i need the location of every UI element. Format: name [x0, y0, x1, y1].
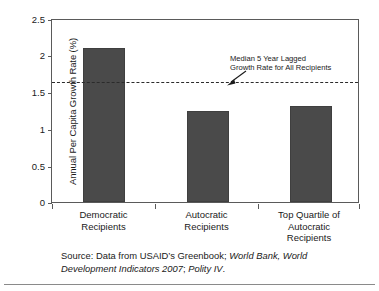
source-note-italic-polity: Polity IV [188, 263, 222, 274]
median-reference-line [52, 82, 358, 83]
bar-democratic-recipients [83, 48, 125, 202]
y-tick-mark [48, 93, 52, 94]
chart-figure: Annual Per Capita Growth Rate (%) 2.5 2 … [0, 0, 379, 291]
y-tick-mark [48, 167, 52, 168]
source-note: Source: Data from USAID’s Greenbook; Wor… [61, 250, 361, 275]
x-axis-label-autocratic-recipients: Autocratic Recipients [155, 209, 258, 232]
y-tick-label: 0 [40, 197, 45, 208]
annotation-arrow-icon [222, 68, 250, 88]
y-tick-mark [48, 20, 52, 21]
plot-area: Annual Per Capita Growth Rate (%) 2.5 2 … [51, 19, 359, 203]
y-tick-label: 2.5 [32, 14, 45, 25]
y-tick-mark [48, 56, 52, 57]
x-axis-label-top-quartile-autocratic-recipients: Top Quartile of Autocratic Recipients [258, 209, 360, 244]
y-tick-label: 0.5 [32, 161, 45, 172]
y-axis-title: Annual Per Capita Growth Rate (%) [67, 17, 78, 207]
bottom-divider [4, 284, 375, 285]
y-tick-label: 2 [40, 50, 45, 61]
bar-autocratic-recipients [187, 111, 229, 203]
source-note-prefix: Source: Data from USAID’s Greenbook; [61, 250, 229, 261]
y-tick-label: 1.5 [32, 87, 45, 98]
source-note-italic-2: Polity IV [188, 263, 222, 274]
x-axis-label-democratic-recipients: Democratic Recipients [52, 209, 155, 232]
bar-top-quartile-autocratic-recipients [290, 106, 332, 202]
y-tick-label: 1 [40, 124, 45, 135]
y-tick-mark [48, 130, 52, 131]
source-note-suffix: . [223, 263, 226, 274]
